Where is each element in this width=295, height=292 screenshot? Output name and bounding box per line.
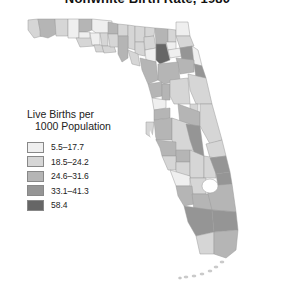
legend-label: 18.5–24.2 bbox=[51, 157, 89, 167]
legend-title: Live Births per 1000 Population bbox=[27, 108, 111, 132]
legend-label: 24.6–31.6 bbox=[51, 171, 89, 181]
legend-item: 58.4 bbox=[27, 198, 111, 213]
legend: Live Births per 1000 Population 5.5–17.7… bbox=[27, 108, 111, 213]
legend-item: 18.5–24.2 bbox=[27, 155, 111, 170]
county-hardee bbox=[176, 150, 190, 162]
county-hernando bbox=[152, 98, 166, 110]
county-lake bbox=[170, 78, 190, 104]
county-sarasota bbox=[162, 156, 176, 170]
county-taylor bbox=[118, 36, 128, 62]
county-hillsborough bbox=[154, 118, 172, 140]
county-columbia bbox=[155, 28, 168, 44]
county-martin bbox=[216, 172, 232, 186]
county-bradford bbox=[168, 48, 182, 58]
county-hamilton bbox=[145, 27, 155, 37]
county-holmes bbox=[79, 19, 92, 32]
county-collier bbox=[184, 206, 214, 236]
legend-swatch bbox=[27, 200, 44, 211]
county-citrus bbox=[148, 82, 162, 98]
county-liberty bbox=[100, 33, 108, 46]
legend-item: 5.5–17.7 bbox=[27, 140, 111, 155]
county-sumter bbox=[162, 84, 170, 100]
county-gadsden bbox=[108, 22, 118, 34]
legend-swatch bbox=[27, 156, 44, 167]
county-madison bbox=[135, 26, 145, 42]
legend-title-line2: 1000 Population bbox=[27, 120, 111, 132]
county-lee bbox=[176, 186, 194, 206]
lake-okeechobee bbox=[202, 179, 218, 193]
legend-swatch bbox=[27, 142, 44, 153]
county-santa-rosa bbox=[38, 19, 56, 38]
legend-item: 33.1–41.3 bbox=[27, 184, 111, 199]
legend-item: 24.6–31.6 bbox=[27, 169, 111, 184]
county-suwannee bbox=[144, 36, 156, 50]
county-leon bbox=[118, 24, 128, 36]
county-baker bbox=[168, 29, 176, 42]
county-broward bbox=[212, 210, 238, 232]
legend-swatch bbox=[27, 185, 44, 196]
florida-keys bbox=[179, 261, 225, 279]
legend-swatch bbox=[27, 171, 44, 182]
county-brevard bbox=[200, 104, 222, 144]
legend-label: 58.4 bbox=[51, 200, 68, 210]
county-calhoun bbox=[90, 33, 100, 45]
county-monroe bbox=[196, 232, 214, 254]
county-manatee bbox=[156, 140, 176, 156]
county-dade bbox=[214, 230, 238, 258]
county-okaloosa bbox=[55, 19, 68, 36]
county-jefferson bbox=[128, 25, 135, 50]
county-walton bbox=[68, 19, 79, 38]
county-pasco bbox=[154, 108, 170, 120]
legend-label: 33.1–41.3 bbox=[51, 186, 89, 196]
county-volusia bbox=[188, 74, 212, 104]
legend-label: 5.5–17.7 bbox=[51, 142, 84, 152]
county-levy bbox=[140, 58, 158, 84]
county-nassau bbox=[176, 22, 190, 36]
legend-title-line1: Live Births per bbox=[27, 108, 94, 120]
